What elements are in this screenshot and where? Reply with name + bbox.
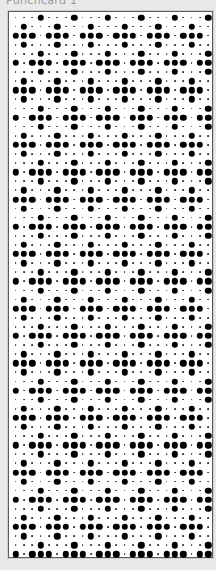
punched-hole xyxy=(54,515,60,521)
unpunched-position xyxy=(31,80,33,82)
punched-hole xyxy=(180,333,186,339)
unpunched-position xyxy=(90,71,92,73)
punched-hole xyxy=(138,60,144,66)
unpunched-position xyxy=(15,481,17,483)
unpunched-position xyxy=(140,362,142,364)
unpunched-position xyxy=(98,44,100,46)
punched-hole xyxy=(180,87,186,93)
unpunched-position xyxy=(124,235,126,237)
punched-hole xyxy=(121,78,127,84)
punched-hole xyxy=(21,242,27,248)
unpunched-position xyxy=(132,381,134,383)
unpunched-position xyxy=(132,153,134,155)
punched-hole xyxy=(63,360,69,366)
unpunched-position xyxy=(191,326,193,328)
unpunched-position xyxy=(199,71,201,73)
unpunched-position xyxy=(115,317,117,319)
unpunched-position xyxy=(15,371,17,373)
unpunched-position xyxy=(166,344,168,346)
unpunched-position xyxy=(182,44,184,46)
punched-hole xyxy=(155,87,161,93)
unpunched-position xyxy=(199,271,201,273)
unpunched-position xyxy=(149,508,151,510)
unpunched-position xyxy=(124,499,126,501)
unpunched-position xyxy=(191,544,193,546)
punched-hole xyxy=(63,551,69,557)
unpunched-position xyxy=(40,362,42,364)
unpunched-position xyxy=(15,462,17,464)
unpunched-position xyxy=(174,371,176,373)
punched-hole xyxy=(21,96,27,102)
punched-hole xyxy=(21,469,27,475)
unpunched-position xyxy=(149,71,151,73)
punched-hole xyxy=(113,196,119,202)
unpunched-position xyxy=(166,462,168,464)
punched-hole xyxy=(105,178,111,184)
unpunched-position xyxy=(149,108,151,110)
unpunched-position xyxy=(132,408,134,410)
unpunched-position xyxy=(124,126,126,128)
punched-hole xyxy=(172,214,178,220)
unpunched-position xyxy=(31,317,33,319)
unpunched-position xyxy=(115,290,117,292)
punched-hole xyxy=(21,87,27,93)
unpunched-position xyxy=(65,108,67,110)
unpunched-position xyxy=(31,26,33,28)
punched-hole xyxy=(96,469,102,475)
unpunched-position xyxy=(82,481,84,483)
punched-hole xyxy=(172,433,178,439)
unpunched-position xyxy=(166,44,168,46)
punched-hole xyxy=(188,142,194,148)
punched-hole xyxy=(155,187,161,193)
unpunched-position xyxy=(23,171,25,173)
punched-hole xyxy=(163,114,169,120)
unpunched-position xyxy=(48,80,50,82)
unpunched-position xyxy=(140,262,142,264)
punched-hole xyxy=(172,333,178,339)
punched-hole xyxy=(147,114,153,120)
unpunched-position xyxy=(90,444,92,446)
unpunched-position xyxy=(107,481,109,483)
punched-hole xyxy=(96,196,102,202)
punched-hole xyxy=(180,196,186,202)
unpunched-position xyxy=(82,517,84,519)
punched-hole xyxy=(197,114,203,120)
unpunched-position xyxy=(149,481,151,483)
punched-hole xyxy=(96,169,102,175)
unpunched-position xyxy=(132,517,134,519)
unpunched-position xyxy=(15,53,17,55)
unpunched-position xyxy=(199,44,201,46)
unpunched-position xyxy=(65,135,67,137)
unpunched-position xyxy=(157,399,159,401)
unpunched-position xyxy=(90,290,92,292)
unpunched-position xyxy=(40,26,42,28)
unpunched-position xyxy=(140,144,142,146)
unpunched-position xyxy=(124,444,126,446)
unpunched-position xyxy=(182,17,184,19)
unpunched-position xyxy=(140,526,142,528)
punched-hole xyxy=(105,14,111,20)
unpunched-position xyxy=(157,435,159,437)
unpunched-position xyxy=(182,153,184,155)
unpunched-position xyxy=(132,208,134,210)
unpunched-position xyxy=(132,453,134,455)
punched-hole xyxy=(46,251,52,257)
unpunched-position xyxy=(23,399,25,401)
unpunched-position xyxy=(115,17,117,19)
unpunched-position xyxy=(208,26,210,28)
punched-hole xyxy=(12,333,18,339)
unpunched-position xyxy=(149,235,151,237)
punched-hole xyxy=(172,506,178,512)
unpunched-position xyxy=(166,399,168,401)
unpunched-position xyxy=(90,399,92,401)
unpunched-position xyxy=(57,280,59,282)
unpunched-position xyxy=(191,108,193,110)
unpunched-position xyxy=(90,180,92,182)
punched-hole xyxy=(113,415,119,421)
unpunched-position xyxy=(57,62,59,64)
punched-hole xyxy=(54,205,60,211)
unpunched-position xyxy=(124,390,126,392)
unpunched-position xyxy=(140,371,142,373)
unpunched-position xyxy=(149,490,151,492)
unpunched-position xyxy=(31,244,33,246)
